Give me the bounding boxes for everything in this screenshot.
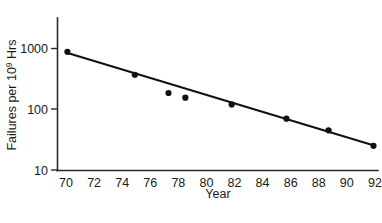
x-tick-label-72: 72 xyxy=(87,176,101,190)
svg-text:Failures per 109 Hrs: Failures per 109 Hrs xyxy=(4,39,19,150)
data-point xyxy=(64,49,70,55)
y-axis-title-pre: Failures per 10 xyxy=(5,67,19,150)
data-point xyxy=(132,72,138,78)
x-axis-title: Year xyxy=(205,187,230,201)
x-tick-label-78: 78 xyxy=(171,176,185,190)
x-tick-label-88: 88 xyxy=(312,176,326,190)
data-point xyxy=(283,116,289,122)
y-tick-label-1000: 1000 xyxy=(20,42,48,56)
x-tick-label-92: 92 xyxy=(368,176,382,190)
y-tick-label-100: 100 xyxy=(27,103,48,117)
x-tick-label-90: 90 xyxy=(340,176,354,190)
semilog-scatter-chart: 1000 100 10 707274767880828486889092 Yea… xyxy=(0,0,382,223)
data-point xyxy=(182,95,188,101)
data-point xyxy=(229,101,235,107)
x-tick-label-86: 86 xyxy=(284,176,298,190)
x-tick-label-70: 70 xyxy=(59,176,73,190)
data-point xyxy=(165,90,171,96)
y-axis-title-post: Hrs xyxy=(5,39,19,62)
data-point xyxy=(370,143,376,149)
x-tick-label-74: 74 xyxy=(115,176,129,190)
data-point xyxy=(325,127,331,133)
y-tick-label-10: 10 xyxy=(34,164,48,178)
y-axis-title: Failures per 109 Hrs xyxy=(4,39,19,150)
x-tick-label-84: 84 xyxy=(256,176,270,190)
x-tick-label-76: 76 xyxy=(143,176,157,190)
chart-figure: 1000 100 10 707274767880828486889092 Yea… xyxy=(0,0,382,223)
